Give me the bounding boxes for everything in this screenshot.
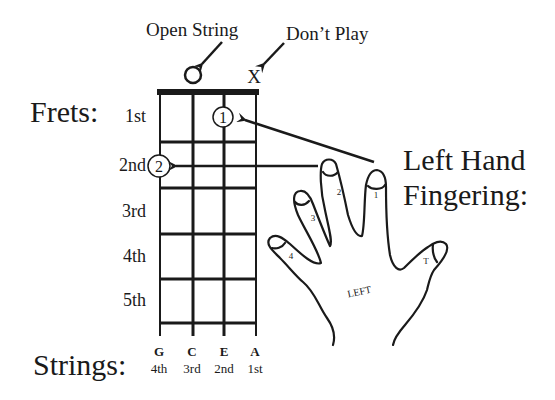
open-string-marker	[185, 67, 201, 83]
hand-outline	[268, 160, 447, 346]
finger-label-3: 3	[311, 213, 316, 223]
finger-label-4: 4	[289, 251, 294, 261]
fretboard	[157, 89, 259, 336]
finger-label-2: 2	[337, 187, 342, 197]
mute-marker: X	[247, 66, 261, 87]
nail-finger-3	[295, 201, 309, 205]
finger-label-1: 1	[374, 190, 379, 200]
nail-finger-1	[368, 185, 385, 189]
nut	[157, 89, 259, 95]
chord-diagram-graphic: X 1 2 1 2 3 4 T LEFT	[0, 0, 555, 400]
open-string-arrow	[202, 42, 222, 64]
left-hand-illustration	[268, 160, 447, 346]
finger-dot-2: 2	[148, 155, 170, 177]
nail-thumb	[433, 244, 437, 262]
svg-text:1: 1	[219, 109, 227, 126]
hand-labels: 1 2 3 4 T LEFT	[289, 187, 430, 299]
nail-finger-4	[272, 243, 285, 248]
finger-1-arrow	[245, 120, 374, 162]
finger-dot-1: 1	[213, 107, 233, 127]
palm-label: LEFT	[346, 284, 372, 300]
nail-finger-2	[323, 172, 338, 176]
thumb-label: T	[423, 256, 429, 266]
dont-play-arrow	[264, 43, 284, 64]
svg-text:2: 2	[155, 158, 163, 175]
